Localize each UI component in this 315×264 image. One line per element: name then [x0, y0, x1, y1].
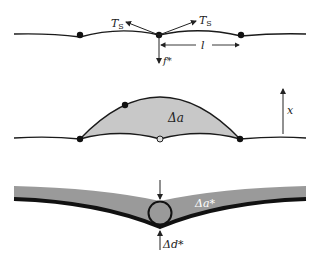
indenter-circle [149, 202, 172, 225]
spacing-label: l [201, 39, 205, 52]
pin-dot-displaced [122, 102, 128, 108]
pin-dot [77, 32, 83, 38]
area-label: Δa [167, 111, 184, 125]
pin-dot [237, 136, 243, 142]
diagram-canvas: TS TS l f* Δa x Δa* Δd* [0, 0, 315, 264]
tension-right-label: TS [199, 14, 212, 28]
tension-arrow-left [126, 22, 159, 35]
depth-label: Δd* [162, 238, 184, 251]
panel-top: TS TS l f* [14, 14, 306, 66]
band-area-label: Δa* [194, 197, 216, 210]
pin-hole-open [157, 136, 163, 142]
panel-bottom: Δa* Δd* [14, 180, 306, 251]
tension-arrow-right [159, 21, 196, 35]
pin-dot [77, 136, 83, 142]
pin-dot [238, 32, 244, 38]
force-label: f* [162, 55, 172, 66]
panel-middle: Δa x [14, 89, 306, 142]
swept-area [80, 97, 240, 139]
displacement-label: x [287, 104, 294, 117]
tension-left-label: TS [111, 17, 124, 31]
